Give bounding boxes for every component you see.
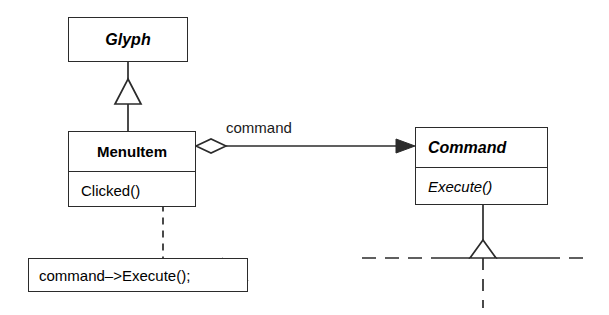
note-text: command–>Execute(); — [39, 267, 190, 284]
hollow-triangle-icon — [115, 79, 141, 104]
class-name-menuitem: MenuItem — [69, 132, 195, 171]
class-operation-clicked: Clicked() — [69, 171, 195, 208]
note-clicked-implementation[interactable]: command–>Execute(); — [28, 258, 248, 292]
open-diamond-icon — [196, 139, 226, 153]
generalization-command-subclasses — [362, 205, 592, 308]
class-name-label: Command — [428, 139, 506, 157]
class-box-glyph[interactable]: Glyph — [68, 17, 188, 62]
filled-arrow-icon — [396, 139, 415, 153]
hollow-triangle-icon — [470, 240, 496, 258]
class-operation-execute: Execute() — [416, 167, 547, 205]
association-label-text: command — [226, 119, 292, 136]
class-box-menuitem[interactable]: MenuItem Clicked() — [68, 131, 196, 207]
association-menuitem-to-command — [196, 139, 415, 153]
class-name-command: Command — [416, 128, 547, 167]
operation-label: Clicked() — [81, 182, 140, 199]
class-box-command[interactable]: Command Execute() — [415, 127, 548, 205]
operation-label: Execute() — [428, 178, 492, 195]
association-label-command: command — [226, 119, 292, 136]
uml-class-diagram: Glyph MenuItem Clicked() Command Execute… — [0, 0, 609, 315]
class-name-glyph: Glyph — [69, 18, 187, 61]
generalization-menuitem-to-glyph — [115, 62, 141, 131]
